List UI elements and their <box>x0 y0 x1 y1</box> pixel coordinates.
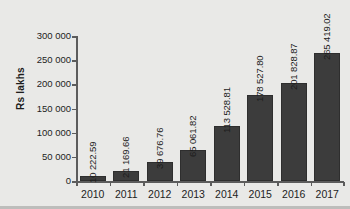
x-axis-category-label: 2013 <box>177 188 211 200</box>
bar <box>314 53 340 181</box>
y-axis-tick-mark <box>72 36 76 38</box>
y-axis-tick-label: 300 000 <box>24 31 71 41</box>
x-axis-category-label: 2017 <box>311 188 345 200</box>
x-axis-tick-mark <box>343 182 345 186</box>
x-axis-tick-mark <box>210 182 212 186</box>
y-axis-tick-mark <box>72 157 76 159</box>
bar <box>281 83 307 181</box>
x-axis-category-label: 2010 <box>76 188 110 200</box>
x-axis-tick-mark <box>177 182 179 186</box>
x-axis-category-label: 2016 <box>277 188 311 200</box>
x-axis-tick-mark <box>311 182 313 186</box>
x-axis-category-label: 2012 <box>143 188 177 200</box>
y-axis-tick-label: 250 000 <box>24 55 71 65</box>
bar-value-label: 265 419.02 <box>321 13 332 60</box>
bar <box>214 126 240 181</box>
y-axis-tick-label: 200 000 <box>24 79 71 89</box>
plot-area: 10 222.59201021 169.66201139 676.7620126… <box>76 36 344 181</box>
y-axis-tick-label: 100 000 <box>24 128 71 138</box>
bar-value-label: 113 528.81 <box>221 87 232 133</box>
x-axis-category-label: 2014 <box>210 188 244 200</box>
bar-chart-figure: Rs lakhs 050 000100 000150 000200 000250… <box>0 0 350 209</box>
y-axis-tick-label: 50 000 <box>24 152 71 162</box>
x-axis-tick-mark <box>244 182 246 186</box>
x-axis-tick-mark <box>277 182 279 186</box>
bar-value-label: 65 061.82 <box>187 115 198 156</box>
y-axis-tick-mark <box>72 60 76 62</box>
y-axis-tick-mark <box>72 109 76 111</box>
bar-value-label: 10 222.59 <box>87 142 98 183</box>
y-axis-tick-mark <box>72 84 76 86</box>
x-axis-tick-mark <box>110 182 112 186</box>
y-axis-line <box>76 36 78 182</box>
bar <box>247 95 273 181</box>
bar-value-label: 178 527.80 <box>254 55 265 102</box>
y-axis-tick-mark <box>72 133 76 135</box>
bar-value-label: 39 676.76 <box>154 127 165 168</box>
x-axis-tick-mark <box>76 182 78 186</box>
y-axis-tick-label: 150 000 <box>24 104 71 114</box>
x-axis-category-label: 2015 <box>244 188 278 200</box>
y-axis-tick-label-group: 050 000100 000150 000200 000250 000300 0… <box>24 0 71 209</box>
y-axis-tick-label: 0 <box>24 176 71 186</box>
x-axis-tick-mark <box>143 182 145 186</box>
bar-value-label: 201 828.87 <box>288 44 299 91</box>
x-axis-category-label: 2011 <box>110 188 144 200</box>
bar-value-label: 21 169.66 <box>120 136 131 177</box>
